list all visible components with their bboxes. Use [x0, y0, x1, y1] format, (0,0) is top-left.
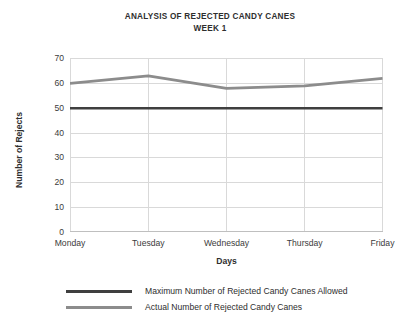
chart-title: ANALYSIS OF REJECTED CANDY CANES [0, 11, 420, 23]
chart-subtitle: WEEK 1 [0, 23, 420, 35]
chart-title-block: ANALYSIS OF REJECTED CANDY CANES WEEK 1 [0, 11, 420, 35]
legend-label-maximum: Maximum Number of Rejected Candy Canes A… [145, 286, 348, 296]
y-tick-10: 10 [54, 202, 64, 212]
y-tick-0: 0 [59, 227, 64, 237]
x-axis-tick-labels: Monday Tuesday Wednesday Thursday Friday [70, 238, 383, 252]
y-tick-50: 50 [54, 103, 64, 113]
y-tick-20: 20 [54, 177, 64, 187]
x-tick-friday: Friday [371, 238, 395, 248]
legend-item-maximum: Maximum Number of Rejected Candy Canes A… [66, 283, 396, 299]
x-axis-title: Days [70, 256, 383, 266]
y-axis-title: Number of Rejects [14, 95, 24, 205]
x-tick-wednesday: Wednesday [204, 238, 249, 248]
chart-container: ANALYSIS OF REJECTED CANDY CANES WEEK 1 … [0, 0, 420, 329]
legend-swatch-maximum [66, 290, 132, 293]
x-tick-monday: Monday [55, 238, 86, 248]
legend-label-actual: Actual Number of Rejected Candy Canes [145, 302, 302, 312]
x-tick-tuesday: Tuesday [132, 238, 165, 248]
x-tick-thursday: Thursday [287, 238, 323, 248]
y-tick-60: 60 [54, 78, 64, 88]
y-tick-30: 30 [54, 152, 64, 162]
chart-legend: Maximum Number of Rejected Candy Canes A… [66, 283, 396, 315]
legend-item-actual: Actual Number of Rejected Candy Canes [66, 299, 396, 315]
y-axis-tick-labels: 70 60 50 40 30 20 10 0 [34, 58, 64, 232]
legend-swatch-actual [66, 306, 132, 309]
plot-area [70, 58, 383, 232]
y-tick-40: 40 [54, 128, 64, 138]
y-tick-70: 70 [54, 53, 64, 63]
